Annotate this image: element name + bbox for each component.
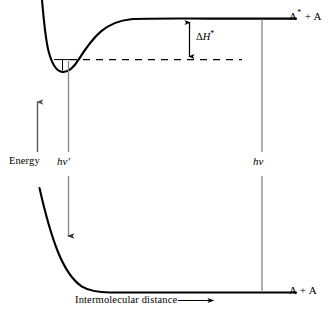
distance-axis-label: Intermolecular distance [75,295,177,306]
diagram-canvas [0,0,330,319]
ground-state-curve [40,188,297,293]
lower-asymptote-label: A + A [289,285,317,296]
upper-asymptote-label: A* + A [289,11,322,22]
energy-axis-label: Energy [9,156,40,167]
enthalpy-label: ΔH* [196,32,214,43]
absorption-label: hν [253,156,263,167]
excited-state-curve [42,0,296,72]
emission-label: hν′ [57,156,70,167]
potential-energy-diagram: A* + A A + A ΔH* hν′ hν Energy Intermole… [0,0,330,319]
